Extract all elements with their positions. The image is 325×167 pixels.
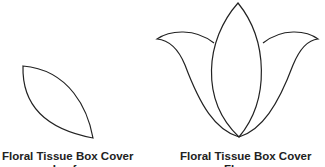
flower-right-petal xyxy=(239,32,318,137)
leaf-caption-line2: Leaf xyxy=(2,163,127,167)
flower-caption: Floral Tissue Box Cover Flower xyxy=(180,150,305,167)
leaf-caption-line1: Floral Tissue Box Cover xyxy=(2,150,133,162)
leaf-shape xyxy=(23,66,93,138)
leaf-caption: Floral Tissue Box Cover Leaf xyxy=(2,150,127,167)
flower-caption-line1: Floral Tissue Box Cover xyxy=(180,150,311,162)
flower-caption-line2: Flower xyxy=(180,163,305,167)
flower-center-petal xyxy=(211,3,261,137)
flower-left-petal xyxy=(157,32,239,137)
leaf-template-outline xyxy=(0,0,325,167)
